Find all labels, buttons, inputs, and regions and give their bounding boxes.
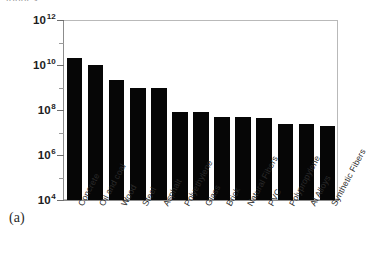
y-tick-base: 10 <box>38 149 51 161</box>
x-axis-labels: ConcreteOil and coalWoodSteelAsphaltPoly… <box>64 203 338 275</box>
y-tick-major <box>57 20 64 21</box>
panel-label: (a) <box>9 210 25 226</box>
y-tick-major <box>57 200 64 201</box>
y-tick-exponent: 8 <box>51 102 56 111</box>
y-tick-label: 108 <box>38 102 56 116</box>
y-tick-base: 10 <box>38 104 51 116</box>
y-tick-label: 106 <box>38 147 56 161</box>
y-tick-exponent: 4 <box>51 192 56 201</box>
y-tick-exponent: 12 <box>47 12 56 21</box>
y-tick-base: 10 <box>33 59 46 71</box>
y-tick-label: 1012 <box>33 12 56 26</box>
y-tick-exponent: 10 <box>47 57 56 66</box>
y-tick-label: 1010 <box>33 57 56 71</box>
y-tick-major <box>57 155 64 156</box>
y-tick-major <box>57 110 64 111</box>
bar <box>151 88 167 201</box>
y-tick-label: 104 <box>38 192 56 206</box>
bar <box>278 124 294 200</box>
y-tick-major <box>57 65 64 66</box>
y-tick-exponent: 6 <box>51 147 56 156</box>
y-tick-base: 10 <box>33 14 46 26</box>
y-tick-base: 10 <box>38 194 51 206</box>
bar <box>67 58 83 200</box>
